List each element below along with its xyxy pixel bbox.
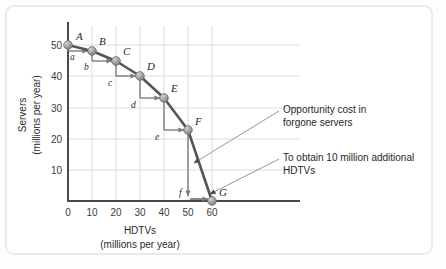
x-tick-30: 30 (134, 207, 146, 218)
step-arrows (68, 45, 208, 199)
marker-point-c[interactable] (112, 57, 121, 66)
x-axis-title-units: (millions per year) (100, 239, 179, 250)
x-axis-title: HDTVs (124, 225, 156, 236)
y-tick-40: 40 (51, 71, 63, 82)
figure-root: 50 40 30 20 10 0 10 20 30 40 50 60 Serve… (0, 0, 446, 269)
x-tick-40: 40 (158, 207, 170, 218)
y-tick-30: 30 (51, 103, 63, 114)
step-label-f: f (179, 188, 183, 198)
marker-point-d[interactable] (136, 72, 145, 81)
point-label-a: A (75, 30, 83, 42)
leader-line-opportunity-cost (194, 111, 279, 163)
marker-point-e[interactable] (160, 94, 169, 103)
y-tick-10: 10 (51, 165, 63, 176)
axis-titles: Servers (millions per year) HDTVs (milli… (17, 75, 180, 250)
marker-point-g[interactable] (208, 197, 217, 206)
annotation-opportunity-cost-line2: forgone servers (283, 117, 352, 128)
marker-point-b[interactable] (88, 47, 97, 56)
leader-line-additional-hdtvs (210, 159, 279, 194)
y-tick-50: 50 (51, 40, 63, 51)
x-tick-50: 50 (182, 207, 194, 218)
annotation-additional-hdtvs-line2: HDTVs (283, 165, 315, 176)
step-label-d: d (131, 100, 136, 110)
point-labels: A B C D E F G (75, 30, 227, 198)
x-tick-10: 10 (86, 207, 98, 218)
step-label-c: c (108, 78, 113, 88)
marker-point-a[interactable] (64, 41, 73, 50)
step-label-e: e (155, 132, 159, 142)
annotation-additional-hdtvs: To obtain 10 million additional HDTVs (283, 152, 414, 176)
ppf-chart: 50 40 30 20 10 0 10 20 30 40 50 60 Serve… (0, 0, 446, 269)
annotation-opportunity-cost: Opportunity cost in forgone servers (283, 104, 366, 128)
point-label-d: D (146, 60, 155, 72)
x-axis-tick-labels: 0 10 20 30 40 50 60 (65, 207, 218, 218)
point-label-f: F (194, 115, 202, 127)
x-tick-60: 60 (206, 207, 218, 218)
y-tick-20: 20 (51, 134, 63, 145)
gridlines (68, 26, 300, 201)
step-label-a: a (70, 52, 75, 62)
y-axis-tick-labels: 50 40 30 20 10 (51, 40, 63, 176)
annotation-opportunity-cost-line1: Opportunity cost in (283, 104, 366, 115)
step-labels: a b c d e f (70, 52, 183, 198)
marker-point-f[interactable] (184, 126, 193, 135)
axes (67, 22, 300, 201)
point-label-c: C (123, 45, 131, 57)
step-label-b: b (84, 62, 89, 72)
point-label-e: E (170, 82, 178, 94)
y-axis-title-units: (millions per year) (31, 75, 42, 154)
point-label-b: B (99, 35, 106, 47)
x-tick-0: 0 (65, 207, 71, 218)
annotation-additional-hdtvs-line1: To obtain 10 million additional (283, 152, 414, 163)
y-axis-title: Servers (17, 98, 28, 132)
x-tick-20: 20 (110, 207, 122, 218)
